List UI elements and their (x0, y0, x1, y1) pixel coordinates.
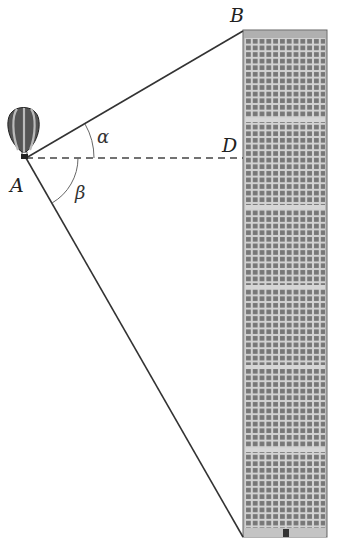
label-A: A (8, 174, 24, 196)
label-B: B (229, 4, 244, 26)
label-alpha: α (97, 126, 109, 147)
diagram-canvas: A B D α β (0, 0, 341, 547)
alpha-arc (85, 124, 94, 158)
line-AB (26, 31, 243, 158)
label-D: D (221, 134, 237, 156)
line-A-bottom (26, 158, 243, 537)
hot-air-balloon-icon (8, 108, 39, 160)
sight-lines (26, 31, 243, 537)
building-door (283, 529, 289, 537)
label-beta: β (74, 182, 85, 203)
building (243, 30, 327, 537)
building-roof (244, 31, 326, 38)
building-windows (245, 38, 325, 528)
